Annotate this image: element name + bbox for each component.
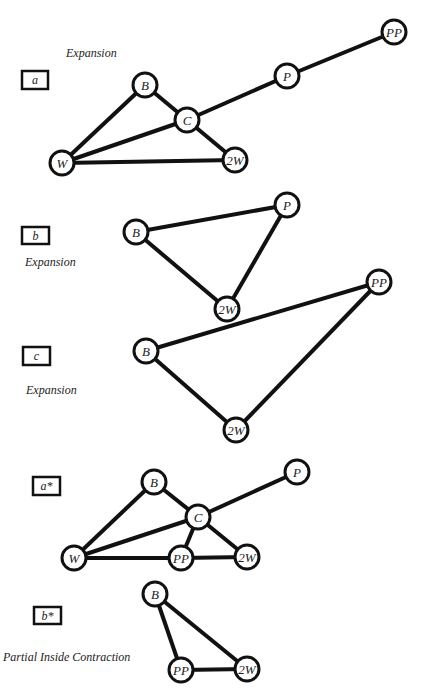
edge-w-b bbox=[62, 85, 145, 163]
vertex-label: PP bbox=[385, 25, 402, 40]
panel-label: a* bbox=[41, 479, 53, 493]
panel-caption: Expansion bbox=[24, 255, 76, 269]
panel-label: a bbox=[32, 73, 38, 87]
vertex-2w: 2W bbox=[235, 657, 259, 681]
edge-c-p bbox=[187, 76, 287, 120]
vertex-label: C bbox=[183, 113, 192, 128]
panel-a: aExpansionBCPPPW2W bbox=[22, 20, 406, 175]
edge-c-p bbox=[198, 472, 297, 517]
vertex-p: P bbox=[285, 460, 309, 484]
vertex-b: B bbox=[142, 470, 166, 494]
vertex-label: 2W bbox=[238, 662, 257, 677]
edge-w-c bbox=[62, 120, 187, 163]
vertex-label: 2W bbox=[227, 423, 246, 438]
vertex-2w: 2W bbox=[215, 297, 239, 321]
vertex-label: 2W bbox=[226, 153, 245, 168]
panel-label: b bbox=[33, 229, 39, 243]
panel-b: bExpansionBP2W bbox=[22, 193, 299, 321]
vertex-pp: PP bbox=[169, 658, 193, 682]
vertex-label: PP bbox=[172, 663, 189, 678]
vertex-p: P bbox=[275, 193, 299, 217]
vertex-b: B bbox=[134, 339, 158, 363]
panel-caption: Expansion bbox=[25, 383, 77, 397]
panel-a-star: a*BCPWPP2W bbox=[33, 460, 309, 570]
edge-b-2w bbox=[146, 351, 236, 430]
edge-p-pp bbox=[287, 32, 394, 76]
panel-label: c bbox=[34, 349, 40, 363]
vertex-label: W bbox=[69, 551, 81, 566]
vertex-label: PP bbox=[172, 551, 189, 566]
edge-b-p bbox=[136, 205, 287, 232]
vertex-label: C bbox=[194, 510, 203, 525]
simplex-diagram: aExpansionBCPPPW2WbExpansionBP2WcExpansi… bbox=[0, 0, 424, 690]
vertex-label: W bbox=[57, 156, 69, 171]
vertex-2w: 2W bbox=[235, 545, 259, 569]
panel-b-star: b*Partial Inside ContractionBPP2W bbox=[2, 582, 259, 682]
edge-w-2w bbox=[62, 160, 235, 163]
vertex-label: B bbox=[142, 344, 150, 359]
vertex-c: C bbox=[186, 505, 210, 529]
vertex-w: W bbox=[50, 151, 74, 175]
vertex-label: B bbox=[141, 78, 149, 93]
panel-c: cExpansionBPP2W bbox=[23, 270, 391, 442]
vertex-label: P bbox=[282, 198, 291, 213]
vertex-label: P bbox=[292, 465, 301, 480]
vertex-b: B bbox=[124, 220, 148, 244]
panel-label: b* bbox=[42, 609, 54, 623]
vertex-label: B bbox=[150, 475, 158, 490]
vertex-pp: PP bbox=[382, 20, 406, 44]
vertex-w: W bbox=[62, 546, 86, 570]
vertex-b: B bbox=[143, 582, 167, 606]
edge-b-2w bbox=[136, 232, 227, 309]
vertex-label: B bbox=[151, 587, 159, 602]
vertex-label: 2W bbox=[238, 550, 257, 565]
vertex-label: PP bbox=[370, 275, 387, 290]
vertex-2w: 2W bbox=[224, 418, 248, 442]
vertex-label: B bbox=[132, 225, 140, 240]
panel-caption: Expansion bbox=[65, 46, 117, 60]
vertex-2w: 2W bbox=[223, 148, 247, 172]
vertex-pp: PP bbox=[367, 270, 391, 294]
panel-caption: Partial Inside Contraction bbox=[2, 650, 130, 664]
vertex-pp: PP bbox=[169, 546, 193, 570]
vertex-c: C bbox=[175, 108, 199, 132]
vertex-label: P bbox=[282, 69, 291, 84]
vertex-p: P bbox=[275, 64, 299, 88]
edge-p-2w bbox=[227, 205, 287, 309]
vertex-b: B bbox=[133, 73, 157, 97]
vertex-label: 2W bbox=[218, 302, 237, 317]
